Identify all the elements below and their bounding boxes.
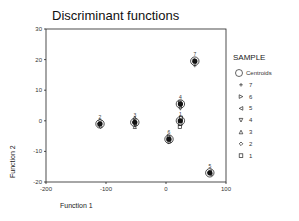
y-tick-label: 20 — [35, 57, 42, 63]
legend-marker-plus-icon — [239, 83, 243, 87]
series-5: 5 — [206, 163, 214, 177]
x-axis: -200-1000100 — [40, 182, 232, 192]
legend-marker-triangle-down-icon — [239, 118, 243, 122]
centroid-label: 5 — [208, 163, 211, 169]
x-tick-label: 0 — [164, 186, 168, 192]
chart-title: Discriminant functions — [52, 8, 180, 23]
group-dot — [132, 120, 137, 125]
x-tick-label: 100 — [221, 186, 232, 192]
plot-frame — [46, 29, 226, 182]
x-tick-label: -100 — [100, 186, 113, 192]
data-points: 2364175 — [96, 51, 214, 177]
y-axis-label: Function 2 — [9, 145, 16, 178]
group-dot — [97, 121, 102, 126]
series-3: 3 — [131, 112, 139, 128]
y-tick-label: 0 — [39, 118, 43, 124]
centroid-label: 6 — [168, 129, 171, 135]
legend-label: 1 — [249, 153, 253, 159]
y-axis: 3020100-10-20 — [33, 26, 46, 185]
group-dot — [178, 101, 183, 106]
y-tick-label: -20 — [33, 179, 42, 185]
group-dot — [192, 59, 197, 64]
series-4: 4 — [176, 94, 184, 110]
group-dot — [207, 170, 212, 175]
centroid-label: 2 — [99, 114, 102, 120]
legend-item: 2 — [239, 141, 253, 147]
legend-item: 6 — [239, 94, 253, 100]
series-6: 6 — [165, 129, 173, 144]
legend-marker-triangle-up-icon — [239, 130, 243, 134]
legend-item: 4 — [239, 117, 253, 123]
centroid-label: 4 — [179, 94, 182, 100]
legend-title: SAMPLE — [233, 53, 265, 62]
legend-label: Centroids — [246, 70, 272, 76]
series-2: 2 — [96, 114, 104, 129]
y-tick-label: 10 — [35, 87, 42, 93]
y-tick-label: 30 — [35, 26, 42, 32]
legend-label: 6 — [249, 94, 253, 100]
legend-marker-triangle-right-icon — [239, 95, 243, 99]
legend-item: 5 — [239, 105, 253, 111]
legend-item: 3 — [239, 129, 253, 135]
legend-label: 4 — [249, 117, 253, 123]
discriminant-chart: Discriminant functions 3020100-10-20 -20… — [0, 0, 299, 221]
centroid-label: 7 — [193, 51, 196, 57]
legend-marker-circle-icon — [236, 70, 243, 77]
legend: SAMPLE Centroids7654321 — [233, 53, 272, 159]
legend-label: 5 — [249, 105, 253, 111]
legend-marker-diamond-icon — [239, 142, 243, 146]
legend-label: 7 — [249, 82, 253, 88]
centroid-label: 3 — [133, 112, 136, 118]
y-tick-label: -10 — [33, 148, 42, 154]
legend-label: 2 — [249, 141, 253, 147]
x-axis-label: Function 1 — [60, 202, 93, 209]
legend-item: 1 — [239, 153, 253, 159]
group-dot — [178, 118, 183, 123]
legend-item: Centroids — [236, 70, 272, 77]
centroid-label: 1 — [179, 111, 182, 117]
legend-marker-square-icon — [239, 154, 243, 158]
legend-label: 3 — [249, 129, 253, 135]
group-dot — [166, 137, 171, 142]
series-7: 7 — [191, 51, 199, 67]
series-1: 1 — [176, 111, 184, 129]
legend-item: 7 — [239, 82, 253, 88]
legend-marker-triangle-left-icon — [239, 107, 243, 111]
x-tick-label: -200 — [40, 186, 53, 192]
